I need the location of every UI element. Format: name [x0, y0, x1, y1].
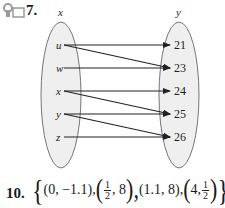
range-element-24: 24 [174, 84, 186, 98]
range-element-23: 23 [174, 61, 186, 75]
fraction-numerator: 1 [105, 180, 110, 190]
domain-element-w: w [56, 62, 64, 74]
range-label: y [175, 6, 181, 18]
pair-4-fraction: 1 2 [202, 180, 209, 201]
fraction-denominator: 2 [105, 191, 110, 201]
domain-element-y: y [55, 108, 61, 120]
close-brace: } [217, 176, 225, 205]
domain-element-z: z [55, 131, 61, 143]
pair-2-fraction: 1 2 [104, 180, 111, 201]
open-brace: { [32, 176, 44, 205]
range-element-25: 25 [174, 107, 186, 121]
mapping-arrow-u-to-23 [64, 45, 170, 68]
pair-3: (1.1, 8), [139, 182, 183, 198]
pair-4-open: ( [183, 177, 190, 203]
fraction-denominator: 2 [203, 191, 208, 201]
mapping-arrow-y-to-26 [64, 114, 170, 137]
domain-element-x: x [55, 85, 61, 97]
range-element-21: 21 [174, 38, 186, 52]
pair-2-open: ( [96, 177, 103, 203]
pair-2-rest: , 8 [112, 182, 126, 198]
pair-4-close: ) [210, 177, 217, 203]
range-element-26: 26 [174, 130, 186, 144]
pair-1: (0, −1.1), [44, 182, 96, 198]
domain-label: x [57, 6, 63, 18]
mapping-diagram: x y uwxyz 2123242526 [0, 0, 225, 180]
set-expression: { (0, −1.1), ( 1 2 , 8 ), (1.1, 8), ( 4,… [32, 178, 225, 202]
fraction-numerator: 1 [203, 180, 208, 190]
pair-2-close: ), [126, 177, 139, 203]
domain-element-u: u [56, 39, 62, 51]
pair-4-first: 4, [191, 182, 202, 198]
problem-number-10: 10. [6, 185, 25, 202]
